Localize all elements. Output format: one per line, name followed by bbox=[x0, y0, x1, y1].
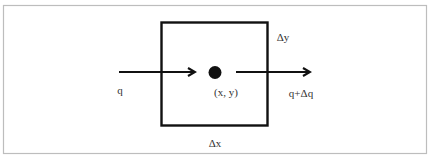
label-point: (x, y) bbox=[214, 86, 238, 99]
label-flux-out: q+Δq bbox=[289, 87, 314, 99]
label-flux-in: q bbox=[117, 84, 123, 96]
control-volume-diagram: q (x, y) q+Δq Δy Δx bbox=[0, 0, 430, 161]
label-delta-y: Δy bbox=[277, 31, 290, 43]
outer-frame bbox=[4, 6, 427, 154]
center-point bbox=[209, 66, 222, 79]
label-delta-x: Δx bbox=[209, 137, 222, 149]
